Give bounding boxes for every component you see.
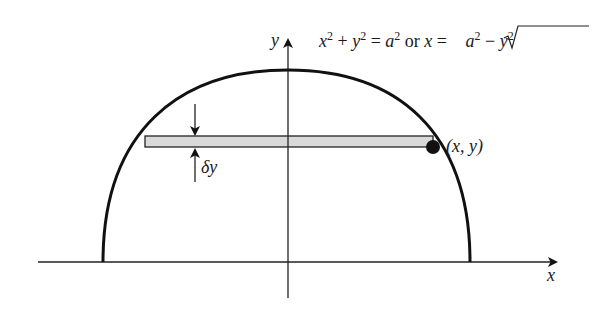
semicircle-arc (103, 70, 470, 262)
sqrt-radical-sign (504, 26, 589, 48)
semicircle-strip-diagram: y x δy (x, y) x2 + y2 = a2 or x = a2 − y… (0, 0, 601, 310)
y-axis-label: y (269, 30, 279, 50)
point-marker (426, 140, 440, 154)
x-axis-label: x (546, 265, 555, 285)
horizontal-strip (145, 136, 433, 147)
delta-y-label: δy (201, 157, 217, 177)
circle-equation: x2 + y2 = a2 or x = a2 − y2 (318, 29, 514, 51)
point-label: (x, y) (446, 136, 483, 157)
